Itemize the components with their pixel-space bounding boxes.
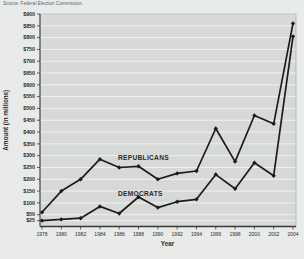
y-tick-label: $400: [23, 129, 35, 135]
x-tick-label: 1998: [230, 231, 241, 237]
x-tick-label: 1982: [75, 231, 86, 237]
x-tick-label: 2000: [249, 231, 260, 237]
series-label-republicans: REPUBLICANS: [118, 154, 169, 161]
x-tick-label: 1984: [94, 231, 105, 237]
y-tick-label: $100: [23, 200, 35, 206]
y-tick-label: $350: [23, 141, 35, 147]
x-tick-label: 2004: [287, 231, 298, 237]
x-tick-label: 1990: [152, 231, 163, 237]
x-tick-label: 1996: [210, 231, 221, 237]
y-tick-label: $700: [23, 58, 35, 64]
x-tick-label: 1988: [133, 231, 144, 237]
party-fundraising-line-chart: $25$50$100$150$200$250$300$350$400$450$5…: [0, 0, 304, 259]
x-tick-label: 1978: [36, 231, 47, 237]
x-axis-title: Year: [161, 240, 175, 247]
y-tick-label: $250: [23, 164, 35, 170]
y-tick-label: $300: [23, 152, 35, 158]
y-tick-label: $650: [23, 70, 35, 76]
y-tick-label: $600: [23, 82, 35, 88]
y-tick-label: $750: [23, 46, 35, 52]
y-tick-label: $900: [23, 11, 35, 17]
x-tick-label: 1992: [172, 231, 183, 237]
y-tick-label: $50: [26, 211, 35, 217]
x-tick-label: 2002: [268, 231, 279, 237]
y-tick-label: $500: [23, 105, 35, 111]
y-tick-label: $200: [23, 176, 35, 182]
y-tick-label: $450: [23, 117, 35, 123]
x-tick-label: 1986: [114, 231, 125, 237]
y-tick-label: $150: [23, 188, 35, 194]
y-tick-label: $800: [23, 34, 35, 40]
y-tick-label: $25: [26, 217, 35, 223]
y-tick-label: $850: [23, 23, 35, 29]
series-label-democrats: DEMOCRATS: [118, 190, 163, 197]
x-tick-label: 1980: [56, 231, 67, 237]
x-tick-label: 1994: [191, 231, 202, 237]
chart-figure: Source: Federal Election Commission. $25…: [0, 0, 304, 259]
y-tick-label: $550: [23, 93, 35, 99]
y-axis-title: Amount (in millions): [2, 90, 10, 151]
